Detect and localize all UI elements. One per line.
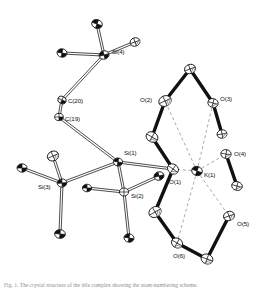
- atom-label-c19: C(19): [65, 116, 80, 122]
- atom-label-si4: Si(4): [112, 49, 125, 55]
- atom-Me32: [46, 149, 61, 163]
- atom-Me23: [123, 233, 134, 243]
- bond-O5-Cr4: [207, 216, 229, 259]
- bond-edge: [62, 163, 118, 184]
- atom-label-si2: Si(2): [131, 193, 144, 199]
- atom-label-si1: Si(1): [124, 150, 137, 156]
- bond-layer: [22, 24, 237, 259]
- bond-edge: [63, 56, 105, 101]
- bond-edge: [60, 116, 119, 161]
- bond-Si4-Me43: [62, 52, 104, 56]
- bond-edge: [124, 177, 159, 193]
- atom-Cr4: [200, 252, 215, 265]
- atom-Si2: [119, 188, 128, 196]
- bond-Si4-C20: [61, 54, 105, 100]
- bond-edge: [58, 118, 117, 163]
- bond-Si3-Me33: [59, 183, 63, 234]
- atom-Me22: [153, 171, 165, 182]
- atom-Cr2: [144, 130, 160, 145]
- bond-C19-Si1: [58, 116, 118, 163]
- figure-caption: Fig. 1. The crystal structure of the tit…: [4, 282, 276, 288]
- bond-edge: [124, 175, 159, 191]
- octant-filled: [17, 164, 22, 168]
- atom-label-c20: C(20): [68, 98, 83, 104]
- bond-edge: [22, 169, 62, 184]
- atom-layer: [17, 18, 243, 266]
- bond-stroke: [207, 216, 229, 259]
- bond-Si1-O1: [118, 161, 173, 170]
- atom-Me21: [82, 184, 91, 192]
- bond-stroke: [190, 69, 213, 103]
- atom-label-o1: O(1): [169, 179, 181, 185]
- atom-C19: [55, 113, 64, 120]
- bond-Si1-Si3: [62, 161, 119, 184]
- structure-canvas: [0, 0, 279, 294]
- bond-Si2-Me23: [123, 192, 130, 238]
- atom-K1: [190, 165, 203, 177]
- atom-label-si3: Si(3): [38, 184, 51, 190]
- atom-Si3: [57, 178, 67, 187]
- atom-O4: [220, 149, 232, 159]
- octant-filled: [82, 184, 87, 188]
- atom-label-o2: O(2): [140, 97, 152, 103]
- bond-edge: [61, 54, 103, 99]
- bond-edge: [62, 52, 104, 54]
- contact-K1-O3: [197, 103, 213, 171]
- contact-K1-O2: [165, 101, 197, 171]
- bond-edge: [59, 183, 61, 234]
- bond-Si2-Me21: [87, 187, 124, 193]
- octant-filled: [22, 168, 27, 172]
- atom-label-k1: K(1): [204, 172, 215, 178]
- atom-Me43: [56, 48, 67, 58]
- atom-label-o3: O(3): [220, 96, 232, 102]
- bond-Cr1-O3: [190, 69, 213, 103]
- bond-edge: [62, 161, 118, 182]
- octant-filled: [59, 117, 63, 121]
- ortep-figure: Si(4)K(1)Si(1)Si(2)Si(3)C(20)C(19)O(1)O(…: [0, 0, 279, 294]
- bond-edge: [87, 187, 124, 191]
- atom-Cr6: [231, 180, 244, 191]
- atom-Me31: [17, 164, 27, 172]
- atom-Me41: [90, 18, 103, 30]
- atom-O5: [222, 210, 236, 222]
- atom-C20: [57, 95, 68, 105]
- atom-Si4: [98, 50, 110, 61]
- atom-label-o5: O(5): [237, 221, 249, 227]
- atom-label-o4: O(4): [234, 151, 246, 157]
- atom-Si1: [113, 157, 123, 166]
- atom-Me33: [54, 229, 66, 239]
- bond-edge: [87, 189, 124, 193]
- atom-Me42: [129, 36, 141, 47]
- atom-label-o6: O(6): [173, 253, 185, 259]
- bond-edge: [62, 54, 104, 56]
- atom-Cr5: [216, 129, 227, 139]
- bond-edge: [61, 183, 63, 234]
- octant-filled: [87, 188, 92, 192]
